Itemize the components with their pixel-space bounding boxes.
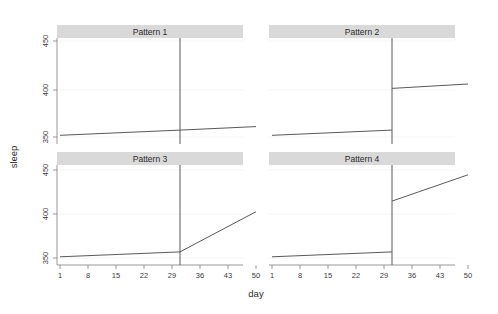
y-tick-label-350-p1: 350 [41,131,50,144]
x-tick-label-15-p4: 15 [324,271,332,280]
panel-background-pattern-2 [269,38,455,144]
strip-label-pattern-2: Pattern 2 [345,27,380,37]
x-tick-label-29-p3: 29 [168,271,176,280]
x-axis-title: day [248,288,264,299]
panel-pattern-3: Pattern 3 450 400 350 1 8 15 22 29 36 43 [41,152,260,280]
x-tick-label-50-p4: 50 [464,271,472,280]
panel-pattern-2: Pattern 2 [269,25,468,144]
x-tick-label-22-p4: 22 [352,271,360,280]
x-tick-label-1-p3: 1 [58,271,62,280]
panel-pattern-1: Pattern 1 450 400 350 [41,25,256,144]
y-tick-label-400-p1: 400 [41,84,50,97]
x-tick-label-36-p3: 36 [196,271,204,280]
x-tick-label-8-p4: 8 [298,271,302,280]
strip-label-pattern-4: Pattern 4 [345,154,380,164]
x-tick-label-29-p4: 29 [380,271,388,280]
trellis-chart: sleep day Pattern 1 450 400 350 Pattern … [0,0,498,314]
y-axis-title: sleep [8,146,19,169]
x-tick-label-8-p3: 8 [86,271,90,280]
panel-pattern-4: Pattern 4 1 8 15 22 29 36 43 50 [269,152,472,280]
x-tick-label-1-p4: 1 [270,271,274,280]
strip-label-pattern-1: Pattern 1 [133,27,168,37]
y-tick-label-400-p3: 400 [41,208,50,221]
y-tick-label-450-p1: 450 [41,35,50,48]
y-tick-label-450-p3: 450 [41,164,50,177]
strip-label-pattern-3: Pattern 3 [133,154,168,164]
y-tick-label-350-p3: 350 [41,252,50,265]
x-tick-label-22-p3: 22 [140,271,148,280]
x-tick-label-15-p3: 15 [112,271,120,280]
x-tick-label-43-p4: 43 [436,271,444,280]
x-tick-label-50-p3: 50 [252,271,260,280]
x-tick-label-36-p4: 36 [408,271,416,280]
panel-background-pattern-4 [269,165,455,265]
x-tick-label-43-p3: 43 [224,271,232,280]
panel-background-pattern-3 [57,165,243,265]
